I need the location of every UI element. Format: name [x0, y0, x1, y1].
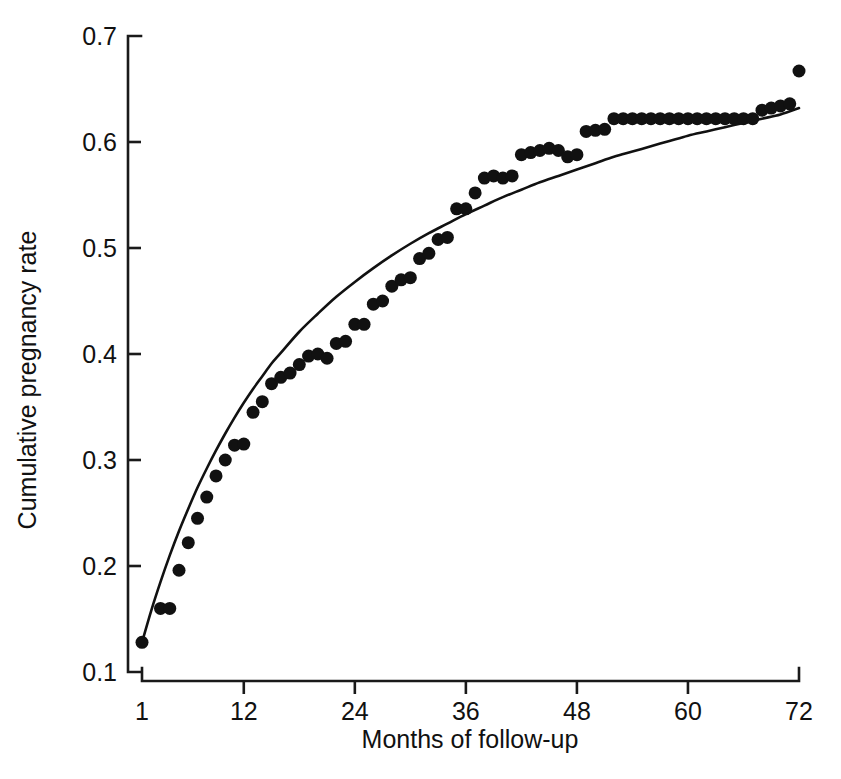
scatter-plot: 0.10.20.30.40.50.60.7 1122436486072 Mont…: [0, 0, 841, 779]
x-tick-label: 36: [452, 697, 480, 725]
data-point: [136, 636, 149, 649]
data-point: [793, 64, 806, 77]
x-tick-label: 72: [785, 697, 813, 725]
y-tick-label: 0.7: [82, 22, 117, 50]
chart-figure: 0.10.20.30.40.50.60.7 1122436486072 Mont…: [0, 0, 841, 779]
y-tick-labels: 0.10.20.30.40.50.60.7: [82, 22, 117, 686]
data-point: [163, 602, 176, 615]
x-tick-label: 1: [135, 697, 149, 725]
y-tick-label: 0.5: [82, 234, 117, 262]
data-point: [441, 231, 454, 244]
data-point: [237, 438, 250, 451]
data-point: [358, 318, 371, 331]
x-tick-label: 24: [341, 697, 369, 725]
data-point: [459, 202, 472, 215]
data-point: [173, 564, 186, 577]
x-axis-line: [142, 668, 799, 681]
data-point: [191, 512, 204, 525]
data-point: [200, 491, 213, 504]
data-point: [469, 186, 482, 199]
x-tick-marks: [244, 681, 688, 694]
y-axis-title: Cumulative pregnancy rate: [13, 231, 41, 530]
data-point-group: [136, 64, 806, 648]
y-tick-marks: [128, 142, 141, 566]
data-point: [219, 454, 232, 467]
data-point: [376, 295, 389, 308]
x-axis-title: Months of follow-up: [362, 725, 579, 753]
data-point: [598, 123, 611, 136]
x-tick-label: 12: [230, 697, 258, 725]
x-tick-labels: 1122436486072: [135, 697, 813, 725]
data-point: [256, 395, 269, 408]
y-tick-label: 0.3: [82, 446, 117, 474]
data-point: [182, 536, 195, 549]
data-point: [783, 97, 796, 110]
fitted-curve: [142, 108, 799, 642]
y-tick-label: 0.1: [82, 658, 117, 686]
y-tick-label: 0.2: [82, 552, 117, 580]
data-point: [570, 148, 583, 161]
data-point: [506, 169, 519, 182]
data-point: [339, 335, 352, 348]
y-tick-label: 0.4: [82, 340, 117, 368]
y-tick-label: 0.6: [82, 128, 117, 156]
data-point: [422, 247, 435, 260]
data-point: [321, 352, 334, 365]
data-point: [404, 271, 417, 284]
data-point: [247, 406, 260, 419]
x-tick-label: 48: [563, 697, 591, 725]
x-tick-label: 60: [674, 697, 702, 725]
data-point: [210, 469, 223, 482]
